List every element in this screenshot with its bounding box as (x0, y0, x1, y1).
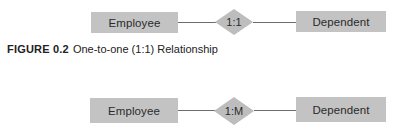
entity-employee: Employee (90, 98, 178, 123)
er-diagram-one-to-many: Employee 1:M Dependent (0, 0, 393, 136)
relationship-diamond: 1:M (214, 97, 254, 125)
entity-label: Employee (108, 105, 160, 117)
connector-line (178, 110, 216, 111)
relationship-label: 1:M (214, 97, 254, 125)
entity-dependent: Dependent (296, 97, 386, 122)
entity-label: Dependent (312, 104, 369, 116)
connector-line (254, 110, 296, 111)
